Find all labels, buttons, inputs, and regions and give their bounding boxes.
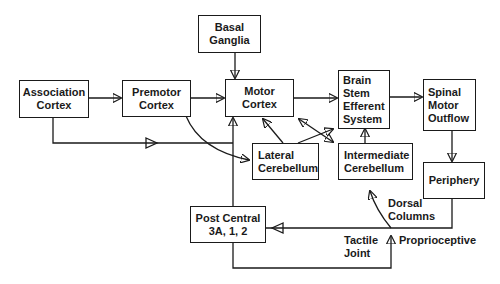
node-label-line: Ganglia [209,34,249,47]
node-label-line: Outflow [428,112,469,125]
node-label-line: Post Central [196,212,261,225]
node-periphery: Periphery [423,162,485,199]
node-basal-ganglia: Basal Ganglia [198,15,261,53]
curve-premotor-to-lateral [186,116,249,160]
arrow-lateral-to-motor [263,119,283,143]
edge-label-joint: Joint [344,247,370,260]
node-label-line: Periphery [429,174,480,187]
node-label-line: Motor [428,99,459,112]
node-label-line: Cortex [242,98,277,111]
node-label-line: System [343,113,382,126]
node-brain-stem-efferent-system: Brain Stem Efferent System [338,70,390,129]
node-association-cortex: Association Cortex [19,80,89,118]
edge-label-proprioceptive: Proprioceptive [399,234,476,247]
edge-label-tactile: Tactile [344,234,378,247]
node-label-line: Spinal [428,86,461,99]
arrow-lateral-to-brainstem [298,129,333,143]
motor-control-diagram: Basal Ganglia Association Cortex Premoto… [0,0,500,284]
node-label-line: Stem [343,87,370,100]
node-spinal-motor-outflow: Spinal Motor Outflow [423,79,476,131]
node-label-line: Brain [343,74,371,87]
node-label-line: Cerebellum [258,162,318,175]
node-label-line: Motor [244,85,275,98]
node-label-line: 3A, 1, 2 [209,225,248,238]
node-label-line: Basal [215,21,244,34]
node-label-line: Premotor [132,86,181,99]
line-association-to-cerebellum [53,117,233,143]
edge-label-columns: Columns [388,210,435,223]
edge-label-dorsal: Dorsal [388,197,422,210]
node-motor-cortex: Motor Cortex [225,79,294,117]
node-post-central: Post Central 3A, 1, 2 [190,206,266,243]
node-label-line: Cerebellum [344,162,404,175]
node-label-line: Intermediate [344,149,409,162]
node-intermediate-cerebellum: Intermediate Cerebellum [338,143,413,180]
node-label-line: Cortex [139,99,174,112]
node-lateral-cerebellum: Lateral Cerebellum [252,143,319,180]
node-label-line: Efferent [343,100,385,113]
node-label-line: Lateral [258,149,294,162]
node-premotor-cortex: Premotor Cortex [122,80,191,117]
node-label-line: Cortex [37,99,72,112]
node-label-line: Association [23,86,85,99]
